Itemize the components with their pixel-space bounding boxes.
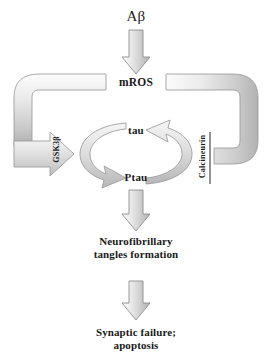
arrow-ptau-to-tangles [122,190,150,231]
node-label-outcome: Synaptic failure; apoptosis [0,326,272,352]
node-label-calcineurin: Calcineurin [198,126,207,188]
pathway-diagram: Aβ mROS tau Ptau GSK3β Calcineurin Neuro… [0,0,272,357]
node-label-tangles: Neurofibrillary tangles formation [0,235,272,261]
outcome-line-2: apoptosis [0,339,272,352]
tangles-line-2: tangles formation [0,248,272,261]
node-label-gsk3b: GSK3β [52,127,61,173]
arrow-ab-to-mros [122,30,150,74]
node-label-amyloid-beta: Aβ [0,8,272,26]
node-label-ptau: Ptau [106,171,166,184]
arrow-tangles-to-outcome [122,281,150,320]
node-label-mros: mROS [0,76,272,90]
tangles-line-1: Neurofibrillary [0,235,272,248]
node-label-tau: tau [106,124,166,137]
outcome-line-1: Synaptic failure; [0,326,272,339]
